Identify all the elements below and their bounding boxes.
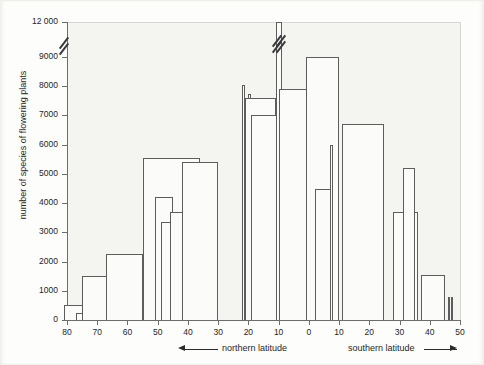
x-tick-40S	[430, 320, 431, 325]
x-tick-label-10N: 10	[266, 327, 292, 337]
bar	[448, 297, 450, 320]
bar	[451, 297, 453, 320]
x-tick-label-50S: 50	[447, 327, 473, 337]
x-tick-label-50N: 50	[145, 327, 171, 337]
x-tick-label-70N: 70	[84, 327, 110, 337]
x-tick-40N	[188, 320, 189, 325]
plot-frame-top	[67, 22, 461, 23]
x-tick-10N	[279, 320, 280, 325]
y-tick-2000	[62, 262, 68, 263]
x-tick-label-60N: 60	[114, 327, 140, 337]
x-tick-30S	[400, 320, 401, 325]
y-tick-label-2000: 2000	[8, 257, 58, 267]
bar	[330, 145, 333, 320]
x-tick-label-40N: 40	[175, 327, 201, 337]
bar	[421, 275, 445, 320]
y-tick-3000	[62, 232, 68, 233]
y-tick-7000	[62, 115, 68, 116]
x-tick-70N	[97, 320, 98, 325]
y-axis-line	[67, 22, 68, 320]
chart-page: 010002000300040005000600070008000900012 …	[0, 0, 484, 365]
x-tick-20N	[248, 320, 249, 325]
x-tick-50N	[158, 320, 159, 325]
x-tick-label-10S: 10	[326, 327, 352, 337]
y-tick-9000	[62, 57, 68, 58]
y-tick-label-4000: 4000	[8, 198, 58, 208]
y-tick-12000	[62, 22, 68, 23]
y-tick-text: 1000	[12, 286, 58, 294]
y-tick-label-1000: 1000	[8, 286, 58, 296]
x-tick-label-20S: 20	[356, 327, 382, 337]
x-tick-label-30S: 30	[387, 327, 413, 337]
x-tick-label-80N: 80	[54, 327, 80, 337]
southern-arrow-head	[450, 345, 457, 351]
x-axis-line	[67, 320, 461, 321]
x-tick-label-20N: 20	[235, 327, 261, 337]
y-axis-title: number of species of flowering plants	[18, 45, 28, 245]
x-tick-50S	[460, 320, 461, 325]
x-tick-80N	[67, 320, 68, 325]
y-tick-text: 12 000	[12, 17, 58, 25]
x-tick-label-0N: 0	[296, 327, 322, 337]
y-tick-4000	[62, 203, 68, 204]
y-tick-text: 0	[12, 315, 58, 323]
y-tick-text: 2000	[12, 257, 58, 265]
y-tick-label-0: 0	[8, 315, 58, 325]
bar	[342, 124, 384, 320]
x-tick-60N	[127, 320, 128, 325]
bar	[403, 168, 415, 320]
x-tick-20S	[369, 320, 370, 325]
y-tick-label-8000: 8000	[8, 81, 58, 91]
x-tick-10S	[339, 320, 340, 325]
y-tick-label-12000: 12 000	[8, 17, 58, 27]
y-tick-label-3000: 3000	[8, 227, 58, 237]
x-tick-30N	[218, 320, 219, 325]
plot-frame-right	[460, 22, 461, 320]
y-tick-label-7000: 7000	[8, 110, 58, 120]
x-tick-0N	[309, 320, 310, 325]
y-tick-5000	[62, 174, 68, 175]
y-tick-1000	[62, 291, 68, 292]
northern-latitude-label: northern latitude	[222, 343, 287, 353]
x-tick-label-30N: 30	[205, 327, 231, 337]
y-tick-6000	[62, 145, 68, 146]
y-tick-label-6000: 6000	[8, 140, 58, 150]
bar	[106, 254, 142, 320]
northern-arrow-line	[185, 349, 218, 350]
bar	[182, 162, 218, 320]
y-tick-label-5000: 5000	[8, 169, 58, 179]
y-tick-label-9000: 9000	[8, 52, 58, 62]
southern-latitude-label: southern latitude	[348, 343, 415, 353]
x-tick-label-40S: 40	[417, 327, 443, 337]
northern-arrow-head	[178, 345, 185, 351]
y-tick-8000	[62, 86, 68, 87]
